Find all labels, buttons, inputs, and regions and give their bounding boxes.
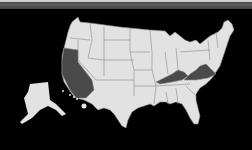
us-map-svg: [0, 9, 252, 150]
header-bar-highlight: [0, 0, 252, 2]
header-bar: [0, 0, 252, 9]
state-alaska[interactable]: [20, 82, 66, 124]
us-map: [0, 9, 252, 150]
